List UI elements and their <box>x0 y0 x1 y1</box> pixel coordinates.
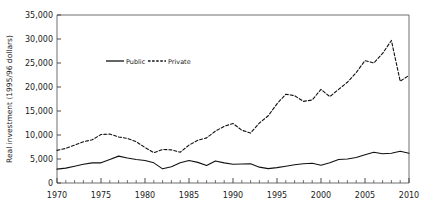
x-tick-label-1980: 1980 <box>135 191 155 200</box>
x-tick-label-1995: 1995 <box>267 191 287 200</box>
legend-label-private: Private <box>168 58 191 66</box>
x-tick-label-1970: 1970 <box>47 191 67 200</box>
y-tick-label-20000: 20,000 <box>25 83 53 92</box>
y-axis-title: Real investment (1995/96 dollars) <box>5 35 14 163</box>
chart-figure: 0 5,000 10,000 15,000 20,000 25,000 30,0… <box>0 0 427 211</box>
y-tick-label-25000: 25,000 <box>25 59 53 68</box>
y-tick-label-10000: 10,000 <box>25 131 53 140</box>
y-tick-label-30000: 30,000 <box>25 35 53 44</box>
x-tick-label-1990: 1990 <box>223 191 243 200</box>
x-tick-label-1985: 1985 <box>179 191 199 200</box>
x-tick-label-2000: 2000 <box>311 191 331 200</box>
y-tick-label-15000: 15,000 <box>25 107 53 116</box>
x-tick-label-2005: 2005 <box>355 191 375 200</box>
y-axis: 0 5,000 10,000 15,000 20,000 25,000 30,0… <box>25 11 61 188</box>
x-tick-label-1975: 1975 <box>91 191 111 200</box>
y-tick-label-5000: 5,000 <box>30 155 53 164</box>
investment-line-chart: 0 5,000 10,000 15,000 20,000 25,000 30,0… <box>0 0 427 211</box>
y-tick-label-35000: 35,000 <box>25 11 53 20</box>
x-tick-label-2010: 2010 <box>399 191 419 200</box>
legend-label-public: Public <box>126 58 146 66</box>
y-tick-label-0: 0 <box>48 179 53 188</box>
